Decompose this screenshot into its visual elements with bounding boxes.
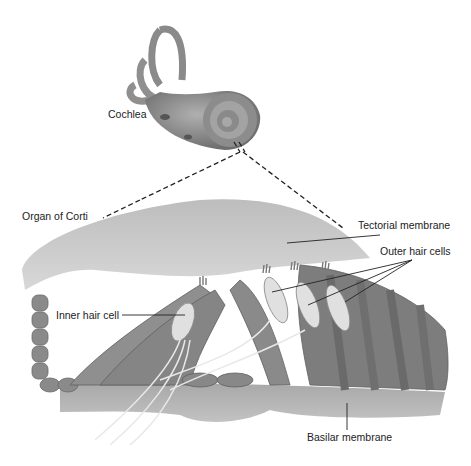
label-outer-hair-cells: Outer hair cells	[380, 245, 451, 257]
organ-of-corti-diagram	[0, 0, 471, 466]
cochlea-illustration	[130, 29, 260, 150]
basilar-membrane	[60, 383, 445, 422]
label-inner-hair-cell: Inner hair cell	[56, 309, 119, 321]
label-cochlea: Cochlea	[108, 108, 147, 120]
label-organ-of-corti: Organ of Corti	[22, 210, 88, 222]
label-basilar-membrane: Basilar membrane	[307, 431, 392, 443]
supporting-cells	[70, 265, 448, 390]
label-tectorial-membrane: Tectorial membrane	[358, 219, 450, 231]
